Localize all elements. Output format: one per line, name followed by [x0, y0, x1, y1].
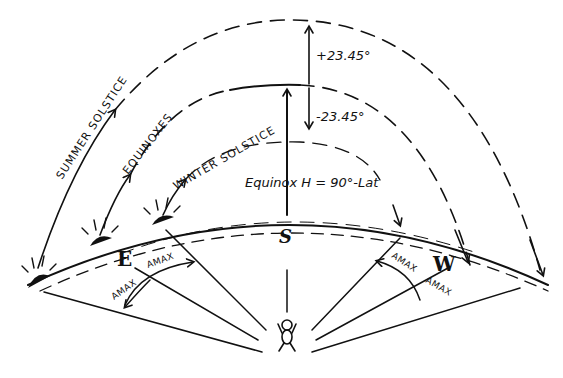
- sun-path-diagram: SUMMER SOLSTICE EQUINOXES WINTER SOLSTIC…: [0, 0, 563, 378]
- equinoxes-label: EQUINOXES: [120, 111, 176, 177]
- person-icon: [278, 320, 296, 351]
- azimuth-west-lower-label: AMAX: [424, 275, 453, 298]
- sunrise-summer-icon: [22, 256, 56, 288]
- azimuth-arcs: [125, 261, 420, 307]
- plus-angle-label: +23.45°: [316, 48, 371, 63]
- sunrise-equinox-icon: [82, 218, 118, 246]
- east-label: E: [117, 247, 132, 271]
- west-label: W: [432, 252, 456, 276]
- equinox-height-label: Equinox H = 90°-Lat: [245, 175, 379, 190]
- azimuth-west-upper-label: AMAX: [390, 250, 419, 274]
- sunrise-winter-icon: [144, 198, 180, 225]
- summer-solstice-label: SUMMER SOLSTICE: [54, 74, 131, 182]
- south-label: S: [279, 226, 292, 247]
- minus-angle-label: -23.45°: [316, 109, 364, 124]
